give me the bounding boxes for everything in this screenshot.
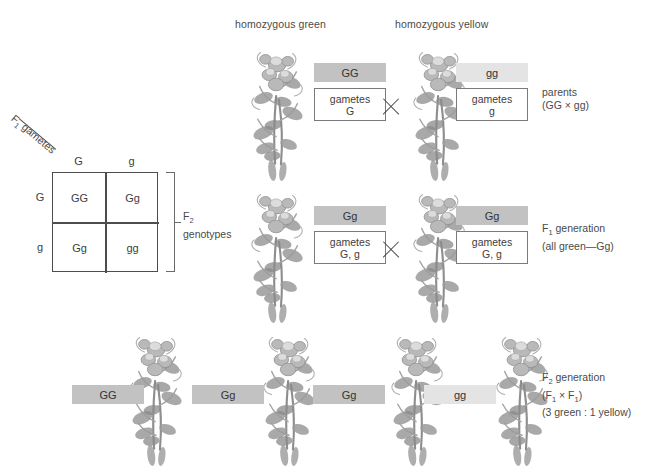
f2-genotypes-label: F2 genotypes: [183, 210, 231, 240]
genotype-box-f2-2: Gg: [192, 385, 264, 404]
genotype-box-parent-right: gg: [456, 63, 528, 82]
punnett-cell-1-0: Gg: [53, 223, 106, 273]
gametes-value: G, g: [482, 248, 502, 260]
annotation-parents-line2: (GG × gg): [542, 99, 589, 112]
parent-right-caption: homozygous yellow: [395, 18, 488, 30]
annotation-parents-line1: parents: [542, 86, 589, 99]
punnett-square: GG Gg Gg gg: [52, 172, 158, 272]
gametes-value: G: [346, 105, 354, 117]
plant-illustration-f1-left: [243, 182, 315, 327]
gametes-box-parent-left: gametes G: [314, 88, 386, 121]
annotation-parents: parents (GG × gg): [542, 86, 589, 111]
gametes-box-parent-right: gametes g: [456, 88, 528, 121]
parent-left-caption: homozygous green: [235, 18, 326, 30]
punnett-row-header-0: G: [32, 172, 48, 222]
gametes-box-f1-left: gametes G, g: [314, 231, 386, 264]
punnett-cell-1-1: gg: [106, 223, 159, 273]
genotype-box-f1-left: Gg: [314, 206, 386, 225]
punnett-cell-0-0: GG: [53, 173, 106, 223]
cross-symbol-f1: [380, 238, 402, 260]
gametes-value: G, g: [340, 248, 360, 260]
gametes-label: gametes: [472, 93, 512, 105]
genotype-box-parent-left: GG: [314, 63, 386, 82]
annotation-f2: F2 generation (F1 × F1) (3 green : 1 yel…: [542, 371, 631, 419]
gametes-value: g: [489, 105, 495, 117]
f2-genotypes-bracket: [166, 172, 175, 272]
genotype-box-f2-3: Gg: [313, 385, 385, 404]
f2-genotypes-bracket-tick: [175, 222, 181, 223]
gametes-label: gametes: [472, 236, 512, 248]
plant-illustration-parent-green: [243, 40, 315, 185]
annotation-f2-line3: (3 green : 1 yellow): [542, 406, 631, 419]
annotation-f2-line1: F2 generation: [542, 371, 631, 389]
gametes-label: gametes: [330, 93, 370, 105]
annotation-f1-line2: (all green—Gg): [542, 240, 614, 253]
genotype-box-f1-right: Gg: [456, 206, 528, 225]
f2-genotypes-label-line2: genotypes: [183, 228, 231, 241]
gametes-label: gametes: [330, 236, 370, 248]
punnett-column-header-1: g: [105, 155, 158, 167]
annotation-f2-line2: (F1 × F1): [542, 389, 631, 407]
punnett-row-header-1: g: [32, 222, 48, 272]
annotation-f1: F1 generation (all green—Gg): [542, 222, 614, 252]
gametes-box-f1-right: gametes G, g: [456, 231, 528, 264]
cross-symbol-parents: [380, 95, 402, 117]
genotype-box-f2-4: gg: [424, 385, 496, 404]
annotation-f1-line1: F1 generation: [542, 222, 614, 240]
f2-genotypes-label-line1: F2: [183, 210, 231, 228]
punnett-diagonal-label: F1 gametes: [7, 112, 58, 158]
punnett-cell-0-1: Gg: [106, 173, 159, 223]
genotype-box-f2-1: GG: [72, 385, 144, 404]
punnett-column-header-0: G: [52, 155, 105, 167]
